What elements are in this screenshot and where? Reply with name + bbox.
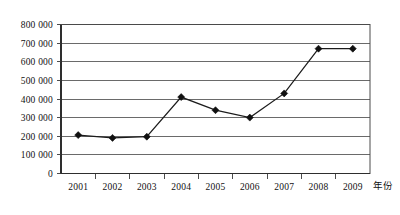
ytick-label-800000: 800 000 <box>21 20 53 30</box>
series-markers <box>75 45 357 141</box>
xtick-label-2003: 2003 <box>137 182 157 192</box>
data-point-2002 <box>109 134 116 141</box>
gridlines <box>61 25 370 155</box>
data-point-2001 <box>75 132 82 139</box>
xtick-label-2002: 2002 <box>103 182 123 192</box>
data-point-2005 <box>212 107 219 114</box>
ytick-label-100000: 100 000 <box>21 150 53 160</box>
xtick-label-2006: 2006 <box>240 182 260 192</box>
chart-canvas: 800 000 700 000 600 000 500 000 400 000 … <box>0 0 400 215</box>
ytick-label-300000: 300 000 <box>21 113 53 123</box>
x-axis-tick-labels: 2001 2002 2003 2004 2005 2006 2007 2008 … <box>68 182 362 192</box>
data-point-2009 <box>349 45 356 52</box>
ytick-label-500000: 500 000 <box>21 76 53 86</box>
line-chart: 800 000 700 000 600 000 500 000 400 000 … <box>0 0 400 215</box>
x-axis-ticks <box>95 174 335 179</box>
y-axis-tick-labels: 800 000 700 000 600 000 500 000 400 000 … <box>21 20 53 179</box>
ytick-label-200000: 200 000 <box>21 132 53 142</box>
xtick-label-2001: 2001 <box>68 182 88 192</box>
xtick-label-2009: 2009 <box>343 182 363 192</box>
xtick-label-2004: 2004 <box>171 182 191 192</box>
xtick-label-2007: 2007 <box>274 182 294 192</box>
y-axis-ticks <box>57 25 61 174</box>
ytick-label-700000: 700 000 <box>21 39 53 49</box>
xtick-label-2008: 2008 <box>309 182 329 192</box>
ytick-label-0: 0 <box>48 169 53 179</box>
x-axis-title: 年份 <box>373 180 393 191</box>
ytick-label-600000: 600 000 <box>21 57 53 67</box>
xtick-label-2005: 2005 <box>206 182 226 192</box>
ytick-label-400000: 400 000 <box>21 95 53 105</box>
